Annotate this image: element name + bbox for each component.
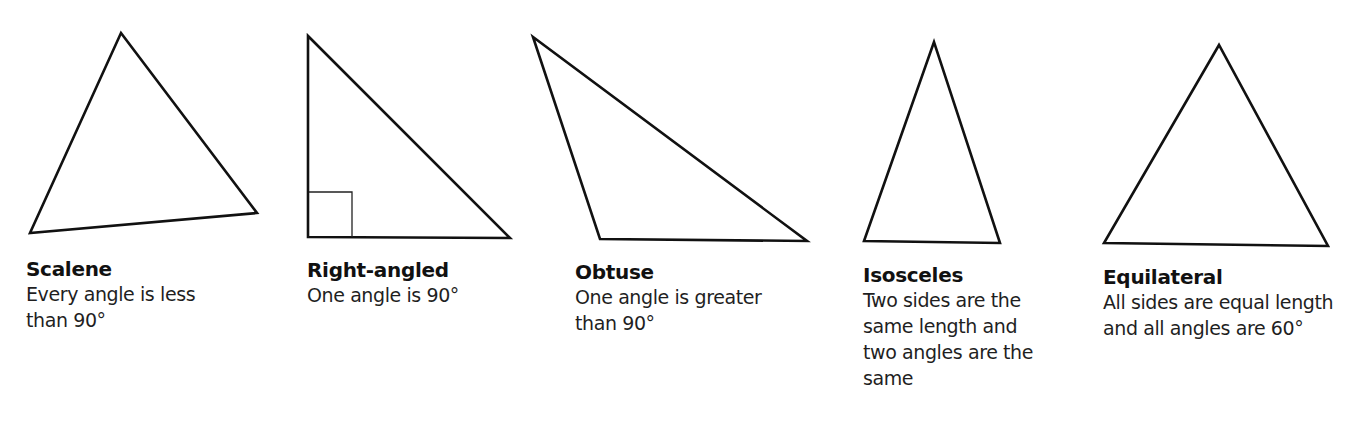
equilateral-title: Equilateral bbox=[1103, 265, 1339, 289]
right-angled-triangle bbox=[308, 36, 510, 238]
obtuse-title: Obtuse bbox=[575, 260, 805, 284]
right-angled-caption: Right-angled One angle is 90° bbox=[307, 258, 507, 308]
obtuse-description: One angle is greater than 90° bbox=[575, 284, 805, 336]
right-angle-marker bbox=[309, 192, 352, 237]
isosceles-description: Two sides are the same length and two an… bbox=[863, 287, 1039, 391]
scalene-triangle bbox=[30, 33, 257, 233]
equilateral-triangle bbox=[1104, 45, 1328, 246]
isosceles-title: Isosceles bbox=[863, 263, 1039, 287]
triangle-diagram bbox=[0, 0, 1355, 432]
equilateral-caption: Equilateral All sides are equal length a… bbox=[1103, 265, 1339, 341]
right-angled-description: One angle is 90° bbox=[307, 282, 507, 308]
isosceles-caption: Isosceles Two sides are the same length … bbox=[863, 263, 1039, 391]
right-angled-title: Right-angled bbox=[307, 258, 507, 282]
obtuse-triangle bbox=[533, 37, 807, 241]
equilateral-description: All sides are equal length and all angle… bbox=[1103, 289, 1339, 341]
scalene-title: Scalene bbox=[26, 257, 226, 281]
scalene-caption: Scalene Every angle is less than 90° bbox=[26, 257, 226, 333]
isosceles-triangle bbox=[864, 42, 1000, 243]
obtuse-caption: Obtuse One angle is greater than 90° bbox=[575, 260, 805, 336]
scalene-description: Every angle is less than 90° bbox=[26, 281, 226, 333]
